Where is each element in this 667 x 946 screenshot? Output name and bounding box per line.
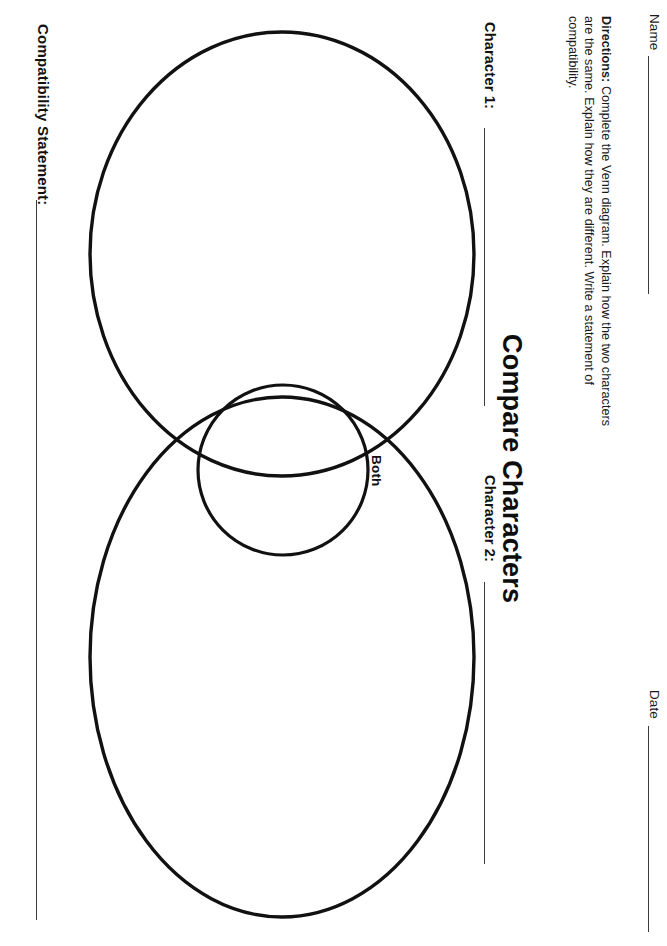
directions-lead: Directions:	[599, 16, 613, 82]
date-label: Date	[648, 690, 662, 719]
compatibility-statement-write-line[interactable]	[36, 200, 37, 920]
character-2-answer-area[interactable]	[100, 540, 470, 910]
date-write-line[interactable]	[648, 726, 649, 932]
directions-text: Directions: Complete the Venn diagram. E…	[564, 16, 614, 446]
both-label: Both	[370, 455, 384, 487]
character-2-write-line[interactable]	[484, 582, 485, 864]
page-title: Compare Characters	[498, 334, 525, 603]
name-label: Name	[648, 14, 662, 50]
character-2-label: Character 2:	[483, 475, 498, 562]
character-1-answer-area[interactable]	[100, 60, 470, 410]
worksheet-page: Name Date Directions: Complete the Venn …	[0, 0, 667, 946]
both-answer-area[interactable]	[205, 400, 365, 540]
name-write-line[interactable]	[648, 56, 649, 294]
character-1-write-line[interactable]	[484, 128, 485, 406]
character-1-label: Character 1:	[483, 22, 498, 109]
compatibility-statement-label: Compatibility Statement:	[36, 24, 51, 205]
